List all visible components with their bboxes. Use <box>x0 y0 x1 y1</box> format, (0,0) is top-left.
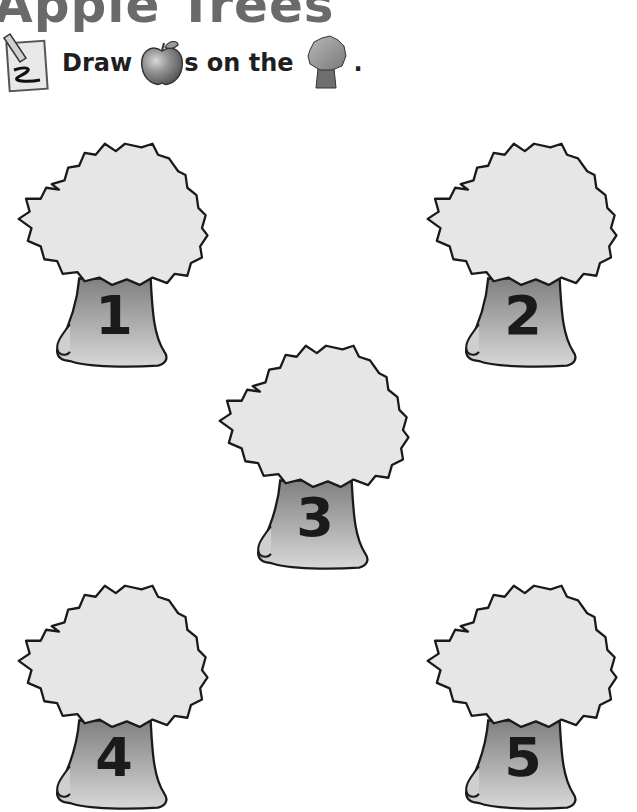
instruction-word-draw: Draw <box>62 49 132 77</box>
tree-number: 2 <box>413 284 633 347</box>
tree-number: 4 <box>4 726 224 789</box>
apple-icon <box>140 39 184 87</box>
tree-1[interactable]: 1 <box>4 116 224 386</box>
tree-number: 5 <box>413 726 633 789</box>
instruction-line: Draw s on the . <box>0 25 363 100</box>
tree-number: 3 <box>205 486 425 549</box>
tree-4[interactable]: 4 <box>4 558 224 812</box>
tree-3[interactable]: 3 <box>205 318 425 588</box>
tree-icon <box>304 32 348 94</box>
instruction-word-s-on-the: s on the <box>184 49 293 77</box>
tree-5[interactable]: 5 <box>413 558 633 812</box>
tree-number: 1 <box>4 284 224 347</box>
tree-2[interactable]: 2 <box>413 116 633 386</box>
pencil-writing-icon <box>0 32 50 94</box>
instruction-period: . <box>354 49 363 77</box>
